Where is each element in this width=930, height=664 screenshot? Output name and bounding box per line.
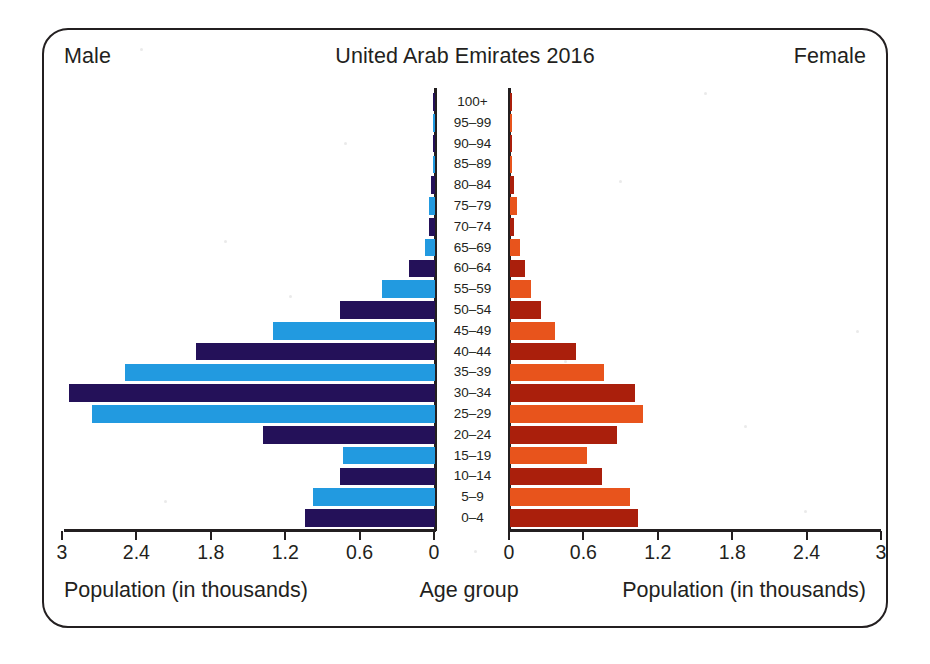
female-bar <box>510 509 638 527</box>
pyramid-row: 45–49 <box>44 321 890 342</box>
male-bar <box>263 426 435 444</box>
age-group-label: 65–69 <box>436 238 509 259</box>
x-axis-tick-label: 1.8 <box>181 541 241 564</box>
pyramid-row: 40–44 <box>44 342 890 363</box>
x-axis-tick-label: 3 <box>851 541 911 564</box>
female-bar <box>510 343 576 361</box>
x-axis-tick <box>508 531 510 540</box>
bar-rows-container: 100+95–9990–9485–8980–8475–7970–7465–696… <box>44 92 890 529</box>
paper-speckle <box>744 425 747 428</box>
age-group-label: 95–99 <box>436 113 509 134</box>
pyramid-row: 85–89 <box>44 154 890 175</box>
age-group-label: 10–14 <box>436 466 509 487</box>
male-bar <box>429 197 435 215</box>
pyramid-row: 65–69 <box>44 238 890 259</box>
age-group-label: 85–89 <box>436 154 509 175</box>
pyramid-row: 35–39 <box>44 362 890 383</box>
male-bar <box>196 343 435 361</box>
pyramid-row: 70–74 <box>44 217 890 238</box>
male-bar <box>433 114 435 132</box>
female-bar <box>510 488 630 506</box>
female-bar <box>510 260 525 278</box>
pyramid-row: 5–9 <box>44 487 890 508</box>
female-bar <box>510 218 514 236</box>
age-group-label: 100+ <box>436 92 509 113</box>
paper-speckle <box>856 330 859 333</box>
x-axis-tick-label: 1.2 <box>255 541 315 564</box>
female-bar <box>510 468 602 486</box>
male-bar <box>343 447 435 465</box>
female-bar <box>510 93 512 111</box>
x-axis-tick <box>359 531 361 540</box>
x-axis-tick <box>657 531 659 540</box>
age-group-label: 0–4 <box>436 508 509 529</box>
age-group-label: 70–74 <box>436 217 509 238</box>
pyramid-row: 95–99 <box>44 113 890 134</box>
male-bar <box>433 93 435 111</box>
age-group-label: 20–24 <box>436 425 509 446</box>
age-group-label: 80–84 <box>436 175 509 196</box>
age-group-label: 30–34 <box>436 383 509 404</box>
paper-speckle <box>140 48 143 51</box>
male-bar <box>431 176 435 194</box>
male-bar <box>425 239 435 257</box>
x-axis-tick-label: 3 <box>32 541 92 564</box>
female-bar <box>510 364 604 382</box>
pyramid-row: 20–24 <box>44 425 890 446</box>
paper-speckle <box>344 142 347 145</box>
paper-speckle <box>164 500 167 503</box>
x-axis-tick-label: 0.6 <box>330 541 390 564</box>
male-bar <box>92 405 435 423</box>
pyramid-row: 10–14 <box>44 466 890 487</box>
pyramid-plot: 100+95–9990–9485–8980–8475–7970–7465–696… <box>44 30 890 630</box>
age-group-label: 75–79 <box>436 196 509 217</box>
x-axis-tick <box>433 531 435 540</box>
female-bar <box>510 426 617 444</box>
age-group-label: 45–49 <box>436 321 509 342</box>
pyramid-row: 60–64 <box>44 258 890 279</box>
x-axis-tick-label: 2.4 <box>106 541 166 564</box>
x-axis-tick-label: 0.6 <box>553 541 613 564</box>
x-axis-tick <box>61 531 63 540</box>
female-bar <box>510 156 512 174</box>
male-bar <box>433 135 435 153</box>
pyramid-row: 80–84 <box>44 175 890 196</box>
male-bar <box>409 260 435 278</box>
male-bar <box>340 468 435 486</box>
age-group-label: 50–54 <box>436 300 509 321</box>
male-bar <box>305 509 435 527</box>
right-x-axis <box>509 529 881 532</box>
age-group-label: 55–59 <box>436 279 509 300</box>
pyramid-row: 75–79 <box>44 196 890 217</box>
female-bar <box>510 280 531 298</box>
paper-speckle <box>224 240 227 243</box>
female-bar <box>510 301 541 319</box>
x-axis-tick <box>806 531 808 540</box>
age-group-label: 90–94 <box>436 134 509 155</box>
left-axis-title: Population (in thousands) <box>64 578 308 603</box>
pyramid-row: 100+ <box>44 92 890 113</box>
male-bar <box>125 364 435 382</box>
paper-speckle <box>289 295 292 298</box>
x-axis-tick <box>582 531 584 540</box>
male-bar <box>313 488 435 506</box>
pyramid-row: 50–54 <box>44 300 890 321</box>
x-axis-tick-label: 0 <box>479 541 539 564</box>
x-axis-tick <box>135 531 137 540</box>
x-axis-tick-label: 1.2 <box>628 541 688 564</box>
x-axis-tick-label: 1.8 <box>702 541 762 564</box>
male-bar <box>273 322 435 340</box>
female-bar <box>510 114 512 132</box>
age-group-label: 35–39 <box>436 362 509 383</box>
x-axis-tick <box>284 531 286 540</box>
x-axis-tick <box>731 531 733 540</box>
paper-speckle <box>474 550 477 553</box>
female-bar <box>510 384 635 402</box>
male-bar <box>69 384 435 402</box>
age-group-label: 15–19 <box>436 446 509 467</box>
x-axis-tick-label: 2.4 <box>777 541 837 564</box>
age-group-label: 40–44 <box>436 342 509 363</box>
female-bar <box>510 405 643 423</box>
age-group-label: 25–29 <box>436 404 509 425</box>
pyramid-row: 15–19 <box>44 446 890 467</box>
